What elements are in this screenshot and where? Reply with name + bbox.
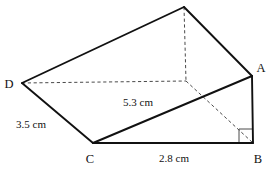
edge-A-to-B: [252, 76, 253, 143]
edge-apex-to-hidden-vertex: [184, 7, 186, 81]
depth-label: 3.5 cm: [16, 118, 46, 130]
prism-diagram: A B C D 5.3 cm 3.5 cm 2.8 cm: [0, 0, 275, 171]
edge-D-to-apex: [22, 7, 184, 83]
vertex-label-B: B: [254, 152, 262, 166]
vertex-label-A: A: [256, 61, 265, 75]
vertex-label-C: C: [86, 152, 94, 166]
edge-apex-to-A: [184, 7, 252, 76]
base-length-label: 2.8 cm: [159, 152, 189, 164]
edge-D-to-hidden-vertex: [22, 81, 186, 83]
vertex-label-D: D: [4, 77, 13, 91]
prism-drawing-canvas: A B C D 5.3 cm 3.5 cm 2.8 cm: [0, 0, 275, 171]
edge-C-to-A: [93, 76, 252, 143]
slant-height-label: 5.3 cm: [123, 96, 153, 108]
edge-D-to-C: [22, 83, 93, 143]
